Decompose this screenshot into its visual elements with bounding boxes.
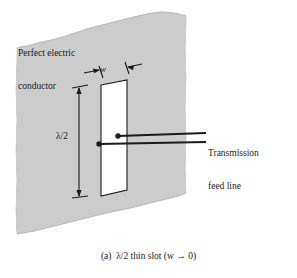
conductor-label-line-1: Perfect electric [18, 48, 75, 59]
slot-length-label: λ/2 [56, 131, 68, 142]
slot-aperture [101, 80, 127, 196]
figure-container: Perfect electric conductor w λ/2 Transmi… [0, 0, 297, 278]
feed-terminal-dot-right [115, 133, 120, 138]
feed-line-label-line-2: feed line [208, 181, 259, 192]
conductor-label-line-2: conductor [18, 81, 75, 92]
conductor-label: Perfect electric conductor [18, 26, 75, 113]
feed-line-label-line-1: Transmission [208, 148, 259, 159]
figure-caption: (a) λ/2 thin slot (w → 0) [0, 251, 297, 262]
slot-width-label: w [100, 64, 106, 74]
feed-terminal-dot-left [96, 141, 101, 146]
feed-line-label: Transmission feed line [208, 126, 259, 213]
